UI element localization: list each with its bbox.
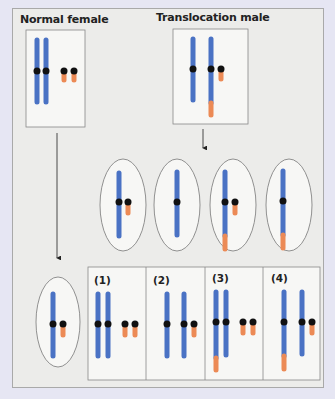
offspring-4-label: (4): [271, 272, 288, 284]
male-gamete-4: [266, 159, 312, 251]
female-gamete: [36, 277, 80, 367]
offspring-3-label: (3): [212, 272, 229, 284]
translocation-male-karyotype: [173, 29, 248, 124]
karyotype-diagram: (1) (2) (3) (4): [0, 0, 335, 399]
offspring-2-label: (2): [153, 274, 170, 286]
normal-female-karyotype: [26, 30, 85, 127]
male-gamete-1: [100, 159, 146, 251]
male-gamete-2: [154, 159, 200, 251]
offspring-1-label: (1): [94, 274, 111, 286]
male-gamete-3: [210, 159, 256, 251]
